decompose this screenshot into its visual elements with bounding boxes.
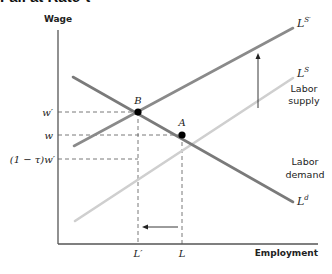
supply-symbol-label: LS: [296, 66, 309, 80]
x-axis-label: Employment: [255, 248, 319, 258]
supply-superscript: S: [304, 66, 309, 74]
point-A: [178, 131, 185, 138]
demand-symbol: L: [296, 195, 304, 208]
labor-market-diagram: Wage Employment B A w′ w (1 − τ)w′ L′ L …: [0, 0, 332, 274]
after-tax-wage-label: (1 − τ)w′: [10, 154, 56, 165]
labor-supply-curve: [75, 78, 293, 221]
point-A-label: A: [177, 117, 185, 128]
L-label: L: [178, 248, 186, 259]
L-prime-label: L′: [133, 248, 144, 259]
demand-superscript: d: [304, 194, 309, 202]
labor-demand-curve: [73, 77, 293, 202]
supply-caption-line1: Labor: [291, 83, 318, 94]
w-prime-label: w′: [42, 107, 54, 118]
point-B: [134, 108, 141, 115]
supply-symbol: L: [296, 67, 304, 80]
y-axis-label: Wage: [44, 14, 72, 24]
point-B-label: B: [133, 95, 141, 106]
supply-caption-line2: supply: [288, 95, 320, 106]
employment-shift-arrowhead-icon: [142, 225, 148, 230]
supply-shift-arrowhead-icon: [256, 53, 261, 59]
shifted-supply-symbol: L: [296, 17, 304, 30]
shifted-supply-label: LS′: [296, 16, 311, 30]
shifted-labor-supply-curve: [74, 28, 293, 146]
demand-caption-line2: demand: [285, 169, 324, 180]
shifted-supply-superscript: S′: [304, 16, 311, 24]
demand-symbol-label: Ld: [296, 194, 309, 208]
w-label: w: [44, 130, 53, 141]
demand-caption-line1: Labor: [292, 156, 319, 167]
